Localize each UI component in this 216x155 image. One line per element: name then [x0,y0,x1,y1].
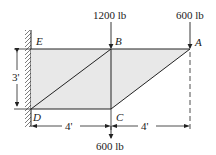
node-D-label: D [32,111,41,123]
truss-diagram: 3' 4' 4' 1200 lb 600 lb 600 lb E B A D C [0,0,216,155]
dimension-span [31,124,190,128]
node-C-label: C [116,111,124,123]
wall-support [25,30,31,127]
node-E-label: E [35,35,43,47]
dimension-span-CA-label: 4' [141,120,149,132]
load-B-label: 1200 lb [93,9,127,21]
dimension-span-DC-label: 4' [65,120,73,132]
load-C-label: 600 lb [96,140,124,152]
node-B-label: B [115,35,122,47]
load-A-label: 600 lb [176,9,204,21]
dimension-height-label: 3' [12,71,20,83]
node-A-label: A [194,36,202,48]
